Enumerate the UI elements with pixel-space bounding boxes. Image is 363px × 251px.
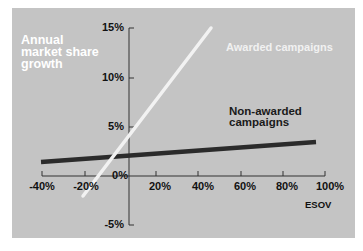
x-tick-60: 60% — [225, 180, 265, 192]
y-tick-10: 10% — [84, 71, 124, 83]
non-awarded-label-line-2: campaigns — [229, 117, 339, 128]
y-axis-title: Annual market share growth — [21, 34, 121, 70]
y-tick-minus-5: -5% — [84, 218, 124, 230]
x-tick-minus-20: -20% — [66, 180, 106, 192]
y-tick-5: 5% — [84, 120, 124, 132]
y-tick-15: 15% — [84, 21, 124, 33]
x-tick-40: 40% — [183, 180, 223, 192]
non-awarded-series-label: Non-awarded campaigns — [229, 106, 339, 128]
y-title-line-3: growth — [21, 58, 121, 70]
x-tick-80: 80% — [267, 180, 307, 192]
x-tick-20: 20% — [140, 180, 180, 192]
awarded-series-label: Awarded campaigns — [226, 41, 333, 53]
x-axis-title: ESOV — [305, 199, 331, 210]
x-tick-100: 100% — [310, 180, 350, 192]
non-awarded-series-line — [41, 142, 316, 162]
x-tick-minus-40: -40% — [22, 180, 62, 192]
